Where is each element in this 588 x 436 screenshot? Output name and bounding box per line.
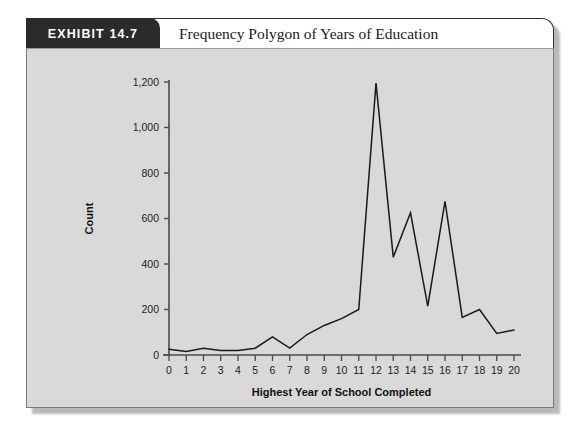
x-tick-label: 13 xyxy=(387,364,399,376)
y-tick-label: 0 xyxy=(153,349,159,361)
y-tick-label: 200 xyxy=(141,303,159,315)
x-tick-label: 8 xyxy=(304,364,310,376)
x-tick-label: 10 xyxy=(336,364,348,376)
x-tick-label: 14 xyxy=(405,364,417,376)
y-tick-label: 800 xyxy=(141,167,159,179)
x-tick-label: 4 xyxy=(235,364,241,376)
x-tick-label: 18 xyxy=(474,364,486,376)
exhibit-title: Frequency Polygon of Years of Education xyxy=(179,19,438,49)
x-tick-label: 12 xyxy=(370,364,382,376)
screenshot-root: EXHIBIT 14.7 Frequency Polygon of Years … xyxy=(0,0,588,436)
y-tick-label: 1,000 xyxy=(133,121,159,133)
y-tick-label: 1,200 xyxy=(133,76,159,88)
x-tick-label: 17 xyxy=(456,364,468,376)
x-tick-label: 19 xyxy=(491,364,503,376)
exhibit-badge: EXHIBIT 14.7 xyxy=(26,18,160,49)
frequency-polygon-chart: 02004006008001,0001,20001234567891011121… xyxy=(27,49,555,409)
chart-area: 02004006008001,0001,20001234567891011121… xyxy=(27,49,555,409)
y-tick-label: 400 xyxy=(141,258,159,270)
x-tick-label: 1 xyxy=(183,364,189,376)
x-tick-label: 5 xyxy=(252,364,258,376)
x-tick-label: 9 xyxy=(321,364,327,376)
x-tick-label: 0 xyxy=(166,364,172,376)
exhibit-badge-label: EXHIBIT 14.7 xyxy=(48,27,138,41)
x-tick-label: 6 xyxy=(270,364,276,376)
exhibit-header: EXHIBIT 14.7 Frequency Polygon of Years … xyxy=(26,18,554,48)
x-tick-label: 3 xyxy=(218,364,224,376)
x-tick-label: 20 xyxy=(508,364,520,376)
y-tick-label: 600 xyxy=(141,212,159,224)
data-line xyxy=(169,83,514,351)
x-tick-label: 7 xyxy=(287,364,293,376)
y-axis-title: Count xyxy=(83,202,95,234)
exhibit-card: EXHIBIT 14.7 Frequency Polygon of Years … xyxy=(26,18,554,408)
x-axis-title: Highest Year of School Completed xyxy=(252,386,432,398)
x-tick-label: 15 xyxy=(422,364,434,376)
x-tick-label: 16 xyxy=(439,364,451,376)
x-tick-label: 2 xyxy=(201,364,207,376)
x-tick-label: 11 xyxy=(353,364,364,376)
exhibit-body: 02004006008001,0001,20001234567891011121… xyxy=(26,48,554,408)
